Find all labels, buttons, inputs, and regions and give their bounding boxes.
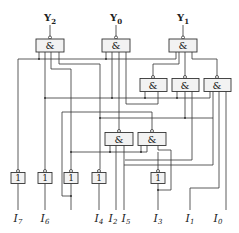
and-gate-y0: &: [102, 36, 130, 52]
input-label-i2: I2: [108, 212, 118, 226]
svg-text:I0: I0: [213, 212, 223, 226]
wiring: [18, 52, 226, 210]
not-gate-i7: 1: [11, 170, 25, 184]
svg-text:1: 1: [68, 173, 74, 183]
input-label-i0: I0: [213, 212, 223, 226]
and-gate-y1: &: [169, 36, 197, 52]
svg-text:I3: I3: [153, 212, 163, 226]
svg-text:&: &: [149, 80, 158, 91]
svg-text:I6: I6: [40, 212, 50, 226]
not-gate-i3: 1: [151, 170, 165, 184]
and-gate-y2: &: [36, 36, 64, 52]
svg-text:&: &: [148, 134, 157, 145]
svg-text:I5: I5: [121, 212, 131, 226]
and-gate-low-1: &: [105, 130, 133, 146]
output-label-y2: Y2: [43, 12, 56, 26]
svg-text:&: &: [115, 134, 124, 145]
svg-text:Y1: Y1: [176, 12, 189, 26]
output-label-y0: Y0: [109, 12, 122, 26]
svg-text:1: 1: [42, 173, 48, 183]
not-gate-i5: 1: [64, 170, 78, 184]
logic-circuit-diagram: Y2 Y0 Y1 & & & & & &: [0, 0, 239, 233]
svg-text:&: &: [213, 80, 222, 91]
svg-text:&: &: [181, 80, 190, 91]
svg-text:&: &: [179, 40, 188, 51]
svg-text:1: 1: [15, 173, 21, 183]
and-symbol: &: [46, 40, 55, 51]
input-label-i1: I1: [185, 212, 195, 226]
not-gate-i4: 1: [92, 170, 106, 184]
svg-text:Y2: Y2: [43, 12, 56, 26]
svg-text:I2: I2: [108, 212, 118, 226]
svg-text:1: 1: [155, 173, 161, 183]
input-label-i5: I5: [121, 212, 131, 226]
and-gate-mid-1: &: [140, 76, 167, 92]
and-gate-mid-2: &: [172, 76, 199, 92]
input-label-i4: I4: [94, 212, 104, 226]
output-label-y1: Y1: [176, 12, 189, 26]
input-label-i3: I3: [153, 212, 163, 226]
svg-text:1: 1: [96, 173, 102, 183]
input-label-i6: I6: [40, 212, 50, 226]
svg-text:I1: I1: [185, 212, 195, 226]
svg-text:&: &: [112, 40, 121, 51]
not-gate-i6: 1: [38, 170, 52, 184]
and-gate-low-2: &: [138, 130, 166, 146]
input-label-i7: I7: [13, 212, 23, 226]
svg-text:I4: I4: [94, 212, 104, 226]
and-gate-mid-3: &: [204, 76, 231, 92]
svg-text:I7: I7: [13, 212, 23, 226]
svg-text:Y0: Y0: [109, 12, 122, 26]
